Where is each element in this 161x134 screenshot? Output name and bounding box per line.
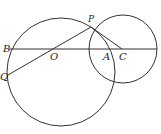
- line-pc: [91, 27, 122, 49]
- label-p: P: [88, 14, 94, 24]
- label-a: A: [103, 52, 110, 62]
- geometry-diagram: P B O A C Q: [0, 0, 161, 134]
- diagram-canvas: [0, 0, 161, 134]
- big-circle: [7, 18, 115, 126]
- label-c: C: [119, 52, 127, 62]
- label-q: Q: [0, 72, 8, 82]
- label-b: B: [3, 44, 10, 54]
- label-o: O: [50, 52, 58, 62]
